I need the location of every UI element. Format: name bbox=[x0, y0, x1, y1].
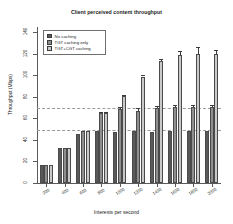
error-bar bbox=[198, 47, 199, 53]
error-bar-cap bbox=[178, 51, 182, 52]
legend-item: TGT caching only bbox=[47, 40, 102, 45]
bar bbox=[150, 132, 154, 183]
y-tick-label: 20 bbox=[23, 154, 28, 168]
bar bbox=[168, 131, 172, 183]
bar bbox=[122, 96, 126, 183]
error-bar-cap bbox=[214, 50, 218, 51]
bar bbox=[173, 107, 177, 183]
error-bar-cap bbox=[173, 105, 177, 106]
y-tick-label: 120 bbox=[23, 46, 28, 60]
bar bbox=[49, 165, 53, 183]
bar bbox=[141, 77, 145, 184]
x-tick bbox=[212, 183, 213, 187]
bar bbox=[136, 111, 140, 183]
error-bar-cap bbox=[104, 112, 108, 113]
error-bar-cap bbox=[141, 75, 145, 76]
bar bbox=[99, 113, 103, 183]
bar bbox=[67, 148, 71, 184]
bar bbox=[210, 107, 214, 183]
x-tick bbox=[65, 183, 66, 187]
x-tick bbox=[157, 183, 158, 187]
bar bbox=[118, 109, 122, 183]
error-bar-cap bbox=[196, 47, 200, 48]
bar bbox=[104, 113, 108, 183]
y-tick-label: 0 bbox=[23, 176, 28, 190]
bar bbox=[187, 131, 191, 183]
bar bbox=[40, 165, 44, 183]
error-bar-cap bbox=[155, 106, 159, 107]
y-tick-label: 60 bbox=[23, 111, 28, 125]
y-tick-label: 80 bbox=[23, 89, 28, 103]
error-bar-cap bbox=[136, 108, 140, 109]
legend-swatch-icon bbox=[47, 46, 52, 51]
legend-swatch-icon bbox=[47, 40, 52, 45]
bar bbox=[196, 54, 200, 183]
error-bar-cap bbox=[159, 59, 163, 60]
error-bar-cap bbox=[122, 95, 126, 96]
legend-item: No caching bbox=[47, 34, 102, 39]
chart-root: Client perceived content throughput 0204… bbox=[0, 0, 233, 224]
bar bbox=[132, 131, 136, 183]
error-bar-cap bbox=[99, 112, 103, 113]
bar bbox=[76, 134, 80, 183]
error-bar-cap bbox=[118, 107, 122, 108]
bar bbox=[205, 131, 209, 183]
bar bbox=[113, 132, 117, 183]
x-tick bbox=[175, 183, 176, 187]
bar bbox=[58, 148, 62, 184]
x-tick bbox=[83, 183, 84, 187]
x-axis-title: Interests per second bbox=[0, 209, 233, 215]
bar bbox=[95, 131, 99, 183]
error-bar-cap bbox=[210, 105, 214, 106]
bar bbox=[81, 131, 85, 183]
legend-swatch-icon bbox=[47, 34, 52, 39]
error-bar-cap bbox=[191, 105, 195, 106]
bar bbox=[159, 61, 163, 183]
bar bbox=[191, 107, 195, 183]
legend-label: TGT+CGT caching bbox=[55, 46, 91, 51]
y-axis-title: Throughput (Mbps) bbox=[8, 65, 13, 125]
bar bbox=[86, 131, 90, 183]
legend-item: TGT+CGT caching bbox=[47, 46, 102, 51]
legend-label: TGT caching only bbox=[55, 40, 89, 45]
legend: No cachingTGT caching onlyTGT+CGT cachin… bbox=[43, 30, 106, 55]
x-tick bbox=[120, 183, 121, 187]
bar bbox=[178, 55, 182, 183]
y-tick-label: 40 bbox=[23, 132, 28, 146]
y-tick-label: 140 bbox=[23, 25, 28, 39]
y-tick bbox=[33, 183, 37, 184]
legend-label: No caching bbox=[55, 34, 77, 39]
bar bbox=[155, 108, 159, 183]
bar bbox=[44, 165, 48, 183]
bar bbox=[214, 54, 218, 183]
bar bbox=[63, 148, 67, 184]
page-title: Client perceived content throughput bbox=[0, 9, 233, 15]
y-tick-label: 100 bbox=[23, 68, 28, 82]
